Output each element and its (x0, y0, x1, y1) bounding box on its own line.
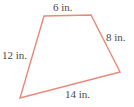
quadrilateral-outline (20, 15, 120, 98)
side-label-top: 6 in. (53, 1, 73, 13)
side-label-right: 8 in. (106, 31, 126, 43)
geometry-figure: 6 in. 8 in. 14 in. 12 in. (0, 0, 134, 107)
side-label-bottom: 14 in. (65, 88, 90, 100)
side-label-left: 12 in. (2, 49, 27, 61)
